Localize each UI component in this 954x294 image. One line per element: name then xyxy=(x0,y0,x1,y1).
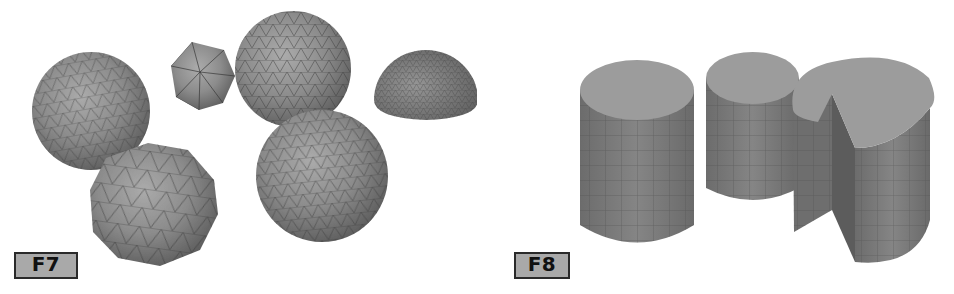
geodesic-sphere-bottom xyxy=(243,98,402,257)
hemisphere-fine xyxy=(370,45,477,125)
spheres-illustration xyxy=(0,0,477,294)
figure-label-f8: F8 xyxy=(514,252,570,279)
cylinders-illustration xyxy=(477,0,954,294)
icosahedron xyxy=(171,42,235,110)
cylinder-short xyxy=(702,52,802,213)
figure-f8-panel: F8 xyxy=(477,0,954,294)
figure-label-f7: F7 xyxy=(14,252,78,279)
figure-f7-panel: F7 xyxy=(0,0,477,294)
cylinder-tall xyxy=(577,60,697,260)
figure-page: F7 xyxy=(0,0,954,294)
cylinder-cut-wedge xyxy=(787,58,937,270)
